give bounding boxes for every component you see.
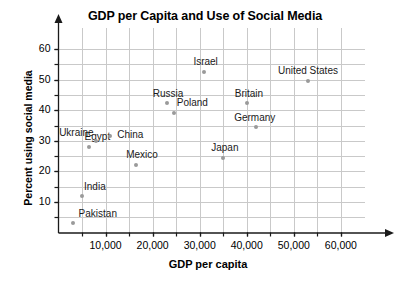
axis-lines [55, 14, 395, 237]
x-tick-label: 20,000 [126, 239, 180, 251]
y-tick-label: 40 [25, 103, 51, 115]
data-point [165, 101, 169, 105]
y-tick-label: 50 [25, 73, 51, 85]
y-tick-label: 30 [25, 134, 51, 146]
data-point-label: Germany [234, 112, 275, 123]
y-axis-arrow [55, 14, 63, 23]
y-tick-label: 60 [25, 42, 51, 54]
data-point-label: Mexico [126, 149, 158, 160]
y-tick-label: 20 [25, 164, 51, 176]
data-point-label: India [84, 181, 106, 192]
data-point [94, 139, 98, 143]
data-point-label: Britain [235, 88, 263, 99]
data-point-label: Pakistan [79, 208, 117, 219]
data-point [71, 221, 75, 225]
data-point-label: Israel [193, 56, 217, 67]
x-tick-label: 40,000 [220, 239, 274, 251]
data-point [87, 145, 91, 149]
data-point-label: Japan [211, 142, 238, 153]
y-tick-label: 10 [25, 195, 51, 207]
x-tick-label: 50,000 [267, 239, 321, 251]
data-point-label: United States [278, 65, 338, 76]
x-axis-arrow [385, 229, 394, 237]
data-point-label: China [117, 129, 143, 140]
data-point-label: Poland [177, 97, 208, 108]
data-point [221, 156, 225, 160]
x-tick-label: 60,000 [314, 239, 368, 251]
data-point [80, 194, 84, 198]
scatter-chart: GDP per Capita and Use of Social Media P… [0, 0, 399, 284]
data-point-label: Ukraine [59, 127, 93, 138]
data-point [245, 101, 249, 105]
x-tick-label: 30,000 [173, 239, 227, 251]
x-tick-label: 10,000 [79, 239, 133, 251]
